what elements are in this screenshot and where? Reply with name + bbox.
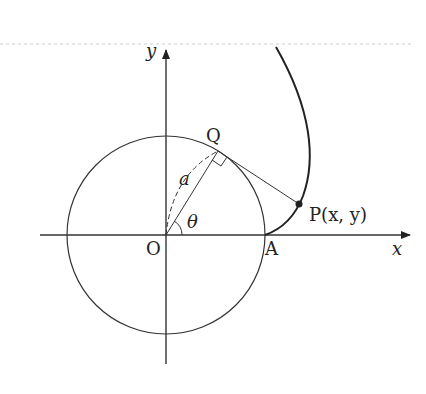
point-a-label: A [265,240,278,258]
radius-label: a [179,170,190,188]
involute-curve [265,47,310,235]
point-p-dot [296,201,303,208]
angle-arc [174,221,182,235]
diagram: y x O A Q P(x, y) a θ [0,0,426,394]
tangent-qp [218,151,299,204]
y-axis-label: y [146,42,156,60]
point-p-label: P(x, y) [309,206,367,224]
diagram-canvas [0,0,426,394]
origin-label: O [146,240,161,258]
angle-label: θ [187,213,198,231]
right-angle-mark [212,157,227,166]
x-axis-label: x [392,240,402,258]
point-q-label: Q [206,127,221,145]
